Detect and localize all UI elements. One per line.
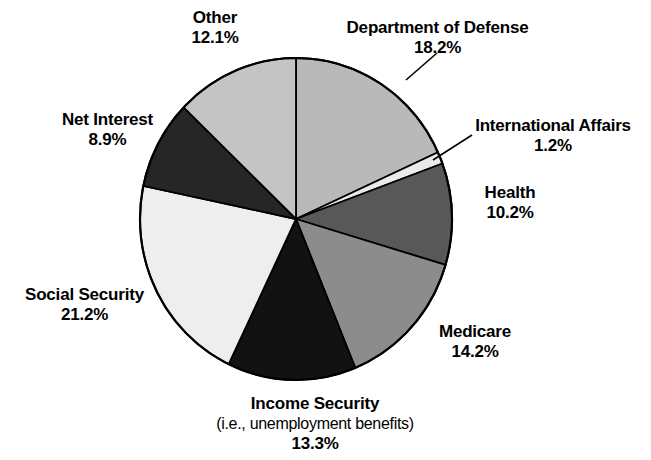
- slice-label-department-of-defense: Department of Defense 18.2%: [335, 18, 540, 58]
- slice-label-social-security-name: Social Security: [2, 285, 167, 305]
- slice-label-medicare-name: Medicare: [420, 322, 530, 342]
- pie-chart-graphic: [0, 0, 651, 460]
- slice-label-international-affairs: International Affairs 1.2%: [455, 116, 651, 156]
- slice-label-international-affairs-name: International Affairs: [455, 116, 651, 136]
- slice-label-income-security-sublabel: (i.e., unemployment benefits): [160, 414, 470, 434]
- slice-label-net-interest-name: Net Interest: [40, 110, 175, 130]
- pie-slice-group: [140, 58, 452, 380]
- slice-label-other-value: 12.1%: [150, 28, 280, 48]
- slice-label-social-security: Social Security 21.2%: [2, 285, 167, 325]
- slice-label-medicare-value: 14.2%: [420, 342, 530, 362]
- slice-label-medicare: Medicare 14.2%: [420, 322, 530, 362]
- slice-label-income-security-name: Income Security: [160, 394, 470, 414]
- slice-label-health: Health 10.2%: [455, 183, 565, 223]
- slice-label-net-interest-value: 8.9%: [40, 130, 175, 150]
- slice-label-other: Other 12.1%: [150, 8, 280, 48]
- slice-label-net-interest: Net Interest 8.9%: [40, 110, 175, 150]
- slice-label-income-security: Income Security (i.e., unemployment bene…: [160, 394, 470, 454]
- slice-label-health-value: 10.2%: [455, 203, 565, 223]
- slice-label-other-name: Other: [150, 8, 280, 28]
- slice-label-social-security-value: 21.2%: [2, 305, 167, 325]
- slice-label-health-name: Health: [455, 183, 565, 203]
- slice-label-department-of-defense-name: Department of Defense: [335, 18, 540, 38]
- slice-label-income-security-value: 13.3%: [160, 434, 470, 454]
- slice-label-international-affairs-value: 1.2%: [455, 136, 651, 156]
- pie-chart-figure: Other 12.1% Department of Defense 18.2% …: [0, 0, 651, 460]
- slice-label-department-of-defense-value: 18.2%: [335, 38, 540, 58]
